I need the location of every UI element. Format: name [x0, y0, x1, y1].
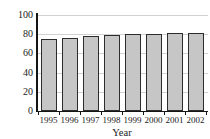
- x-axis-tick-labels: 19951996199719981999200020012002: [36, 115, 208, 125]
- y-tick-label: 100: [6, 10, 33, 20]
- bar-slot: [164, 15, 185, 111]
- x-tick-label: 1995: [38, 115, 59, 125]
- bar-slot: [185, 15, 206, 111]
- bars-group: [36, 15, 208, 111]
- y-axis-tick-labels: 100 80 60 40 20 0: [6, 10, 33, 111]
- plot-area: [36, 15, 208, 111]
- x-tick-label: 2001: [164, 115, 185, 125]
- bar-2002[interactable]: [188, 33, 204, 111]
- bar-chart: Percent 100 80 60 40 20 0 19951996199719…: [0, 0, 210, 139]
- bar-1995[interactable]: [41, 39, 57, 111]
- bar-slot: [59, 15, 80, 111]
- y-tick-label: 20: [6, 87, 33, 97]
- y-tick-label: 0: [6, 106, 33, 116]
- x-tick-label: 2000: [143, 115, 164, 125]
- bar-slot: [101, 15, 122, 111]
- bar-1998[interactable]: [104, 35, 120, 111]
- bar-1997[interactable]: [83, 36, 99, 111]
- bar-slot: [80, 15, 101, 111]
- bar-2000[interactable]: [146, 34, 162, 111]
- y-tick-label: 80: [6, 29, 33, 39]
- bar-slot: [143, 15, 164, 111]
- y-axis-line: [36, 13, 38, 112]
- x-tick-label: 1998: [101, 115, 122, 125]
- x-axis-title: Year: [36, 127, 208, 138]
- bar-2001[interactable]: [167, 33, 183, 111]
- x-tick-label: 1997: [80, 115, 101, 125]
- x-tick-label: 1999: [122, 115, 143, 125]
- bar-slot: [122, 15, 143, 111]
- bar-slot: [38, 15, 59, 111]
- y-tick-label: 60: [6, 48, 33, 58]
- bar-1996[interactable]: [62, 38, 78, 111]
- y-tick-label: 40: [6, 68, 33, 78]
- x-tick-label: 1996: [59, 115, 80, 125]
- x-tick-label: 2002: [185, 115, 206, 125]
- bar-1999[interactable]: [125, 34, 141, 111]
